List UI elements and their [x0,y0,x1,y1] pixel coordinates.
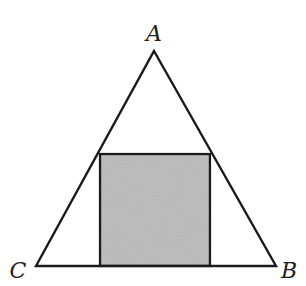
vertex-label-c: C [10,258,27,283]
vertex-label-b: B [280,258,297,283]
inscribed-square [100,154,210,266]
vertex-label-a: A [144,21,162,46]
triangle-square-diagram: A C B [0,0,306,286]
